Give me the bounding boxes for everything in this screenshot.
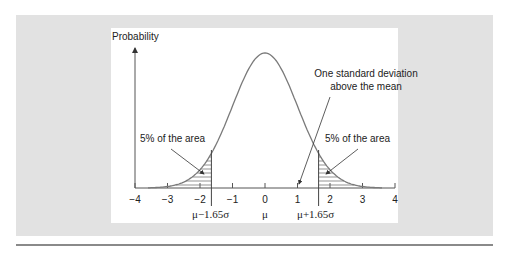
x-tick-label: 4 [392,194,398,205]
left-area-arrow [171,149,204,174]
sd-annotation-line2: above the mean [330,81,402,92]
sd-annotation-line1: One standard deviation [314,68,417,79]
right-area-label: 5% of the area [325,133,390,144]
x-axis-tick-labels: −4−3−2−101234 [129,194,398,205]
right-area-arrow [326,149,358,174]
x-tick-label: 1 [295,194,301,205]
lower-critical-label: μ−1.65σ [192,208,229,220]
left-area-label: 5% of the area [140,133,205,144]
x-tick-label: 0 [262,194,268,205]
x-tick-label: −4 [129,194,141,205]
upper-critical-label: μ+1.65σ [297,208,334,220]
normal-distribution-diagram: Probability −4−3−2−101234 One standard d… [0,0,507,255]
x-tick-label: −1 [227,194,239,205]
mean-label: μ [262,208,268,220]
x-tick-label: −3 [162,194,174,205]
x-tick-label: 2 [327,194,333,205]
y-axis-label: Probability [112,31,159,42]
x-tick-label: −2 [194,194,206,205]
x-tick-label: 3 [360,194,366,205]
